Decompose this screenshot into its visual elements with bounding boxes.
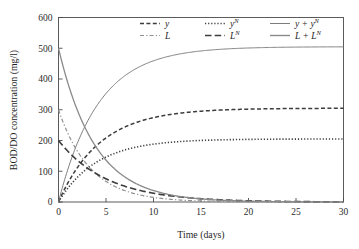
data-curves bbox=[59, 47, 344, 202]
x-tick-label: 15 bbox=[196, 207, 206, 217]
legend-label: LN bbox=[229, 29, 240, 40]
curve-L bbox=[59, 110, 344, 202]
legend-label: y bbox=[164, 19, 170, 29]
chart-svg: 0100200300400500600 051015202530 yyNy + … bbox=[0, 0, 359, 249]
curve-L_N bbox=[59, 141, 344, 202]
y-tick-label: 200 bbox=[38, 136, 53, 146]
chart-figure: 0100200300400500600 051015202530 yyNy + … bbox=[0, 0, 359, 249]
y-tick-label: 400 bbox=[38, 74, 53, 84]
legend-label: L + LN bbox=[294, 29, 322, 40]
x-axis-title: Time (days) bbox=[177, 229, 224, 241]
x-tick-label: 5 bbox=[104, 207, 109, 217]
legend-label: y + yN bbox=[294, 17, 320, 28]
legend-label: L bbox=[164, 31, 170, 41]
curve-y_N bbox=[59, 139, 344, 202]
y-tick-label: 100 bbox=[38, 167, 53, 177]
x-tick-label: 30 bbox=[339, 207, 349, 217]
y-tick-label: 0 bbox=[48, 197, 53, 207]
curve-y_plus_yN bbox=[59, 47, 344, 202]
x-tick-label: 25 bbox=[291, 207, 301, 217]
plot-frame bbox=[59, 18, 344, 203]
y-tick-label: 500 bbox=[38, 44, 53, 54]
x-tick-label: 0 bbox=[56, 207, 61, 217]
y-tick-label: 300 bbox=[38, 105, 53, 115]
curve-L_plus_LN bbox=[59, 48, 344, 202]
y-tick-label: 600 bbox=[38, 13, 53, 23]
x-tick-label: 10 bbox=[149, 207, 159, 217]
y-axis-title: BOD/DO concentration (mg/l) bbox=[8, 50, 20, 170]
chart-legend: yyNy + yNLLNL + LN bbox=[140, 17, 322, 40]
x-tick-label: 20 bbox=[244, 207, 254, 217]
legend-label: yN bbox=[229, 17, 239, 28]
